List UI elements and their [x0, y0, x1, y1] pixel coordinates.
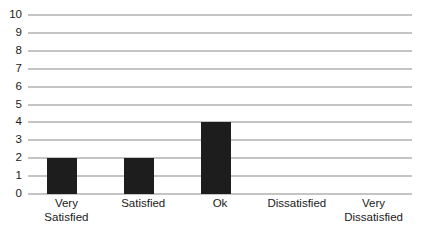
y-axis-tick-label: 5 — [16, 99, 22, 111]
x-axis-category-labels: VerySatisfiedSatisfiedOkDissatisfiedVery… — [28, 197, 412, 234]
x-axis-category-label-line: Very — [28, 197, 105, 211]
bar — [124, 158, 154, 194]
x-axis-category-label-line: Dissatisfied — [335, 211, 412, 225]
bar-series — [28, 15, 412, 194]
bar-chart: 109876543210 VerySatisfiedSatisfiedOkDis… — [0, 0, 428, 234]
x-axis-category-label: Satisfied — [105, 197, 182, 211]
y-axis-tick-label: 6 — [16, 81, 22, 93]
x-axis-category-label-line: Satisfied — [105, 197, 182, 211]
x-axis-category-label: Dissatisfied — [258, 197, 335, 211]
y-axis-tick-label: 0 — [16, 188, 22, 200]
x-axis-category-label: VeryDissatisfied — [335, 197, 412, 224]
y-axis-tick-label: 4 — [16, 117, 22, 129]
bar — [201, 122, 231, 194]
y-axis-tick-labels: 109876543210 — [0, 15, 24, 194]
x-axis-category-label-line: Ok — [182, 197, 259, 211]
y-axis-tick-label: 9 — [16, 27, 22, 39]
y-axis-tick-label: 10 — [9, 9, 22, 21]
x-axis-category-label-line: Satisfied — [28, 211, 105, 225]
x-axis-category-label: VerySatisfied — [28, 197, 105, 224]
x-axis-category-label-line: Very — [335, 197, 412, 211]
y-axis-tick-label: 7 — [16, 63, 22, 75]
x-axis-category-label-line: Dissatisfied — [258, 197, 335, 211]
y-axis-tick-label: 1 — [16, 170, 22, 182]
x-axis-category-label: Ok — [182, 197, 259, 211]
y-axis-tick-label: 3 — [16, 135, 22, 147]
bar — [47, 158, 77, 194]
y-axis-tick-label: 2 — [16, 152, 22, 164]
y-axis-tick-label: 8 — [16, 45, 22, 57]
